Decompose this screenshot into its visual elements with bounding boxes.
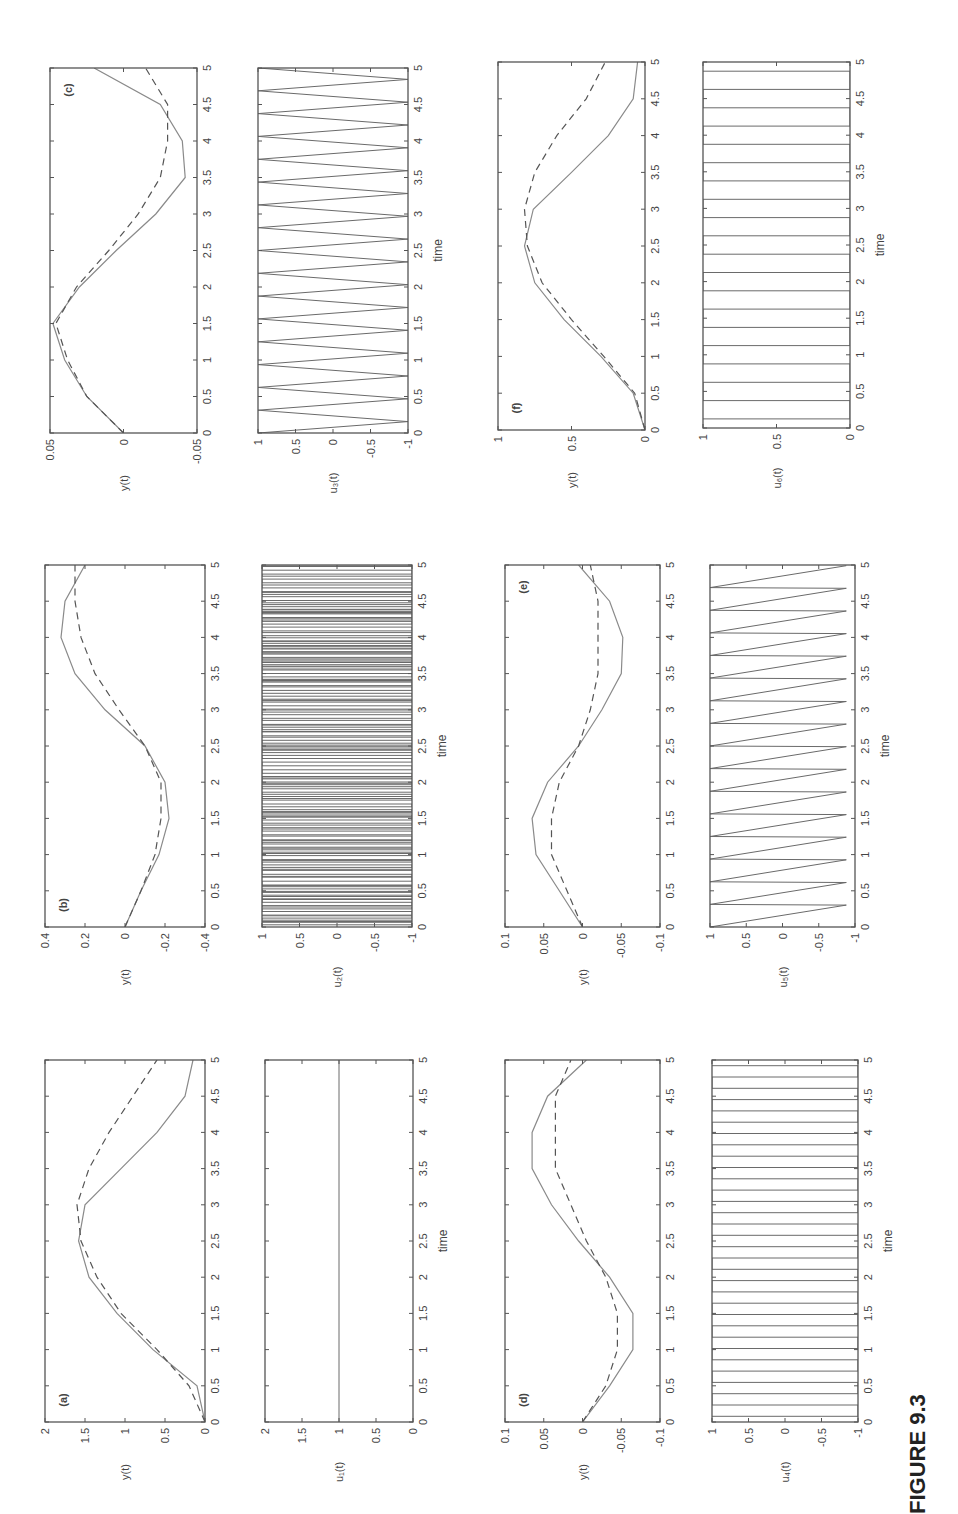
- x-tick-label: 0: [862, 1419, 874, 1425]
- x-tick-label: 4.5: [859, 594, 871, 609]
- x-tick-label: 3: [201, 211, 213, 217]
- x-tick-label: 0.5: [416, 883, 428, 898]
- axes-frame: [505, 1060, 660, 1422]
- panel-d: 00.511.522.533.544.55-0.1-0.0500.050.1y(…: [499, 1057, 676, 1480]
- x-tick-label: 1: [209, 1347, 221, 1353]
- panel-u3: 00.511.522.533.544.55-1-0.500.51u₃(t)tim…: [252, 65, 445, 494]
- x-tick-label: 1.5: [859, 811, 871, 826]
- x-tick-label: 3.5: [417, 1161, 429, 1176]
- y-tick-label: 1: [706, 1428, 718, 1434]
- x-tick-label: 4: [664, 634, 676, 640]
- y-tick-label: 0: [779, 1428, 791, 1434]
- y-tick-label: 0: [577, 1428, 589, 1434]
- x-tick-label: 5: [664, 1057, 676, 1063]
- x-tick-label: 2.5: [859, 738, 871, 753]
- y-tick-label: 1: [252, 439, 264, 445]
- y-tick-label: 0.5: [290, 439, 302, 454]
- y-tick-label: 0.5: [771, 434, 783, 449]
- x-tick-label: 2: [664, 779, 676, 785]
- x-tick-label: 2.5: [209, 1233, 221, 1248]
- x-tick-label: 3: [859, 707, 871, 713]
- x-tick-label: 1.5: [417, 1306, 429, 1321]
- x-tick-label: 3: [412, 211, 424, 217]
- x-tick-label: 2: [201, 284, 213, 290]
- panel-e: 00.511.522.533.544.55-0.1-0.0500.050.1y(…: [499, 562, 676, 985]
- y-tick-label: -1: [402, 439, 414, 449]
- panel-label: (d): [517, 1393, 529, 1407]
- x-tick-label: 4: [417, 1129, 429, 1135]
- series-dashed: [75, 565, 161, 927]
- x-tick-label: 0: [859, 924, 871, 930]
- series-solid: [525, 62, 646, 430]
- y-tick-label: -0.5: [369, 933, 381, 952]
- y-tick-label: 0: [777, 933, 789, 939]
- x-tick-label: 2.5: [416, 738, 428, 753]
- y-tick-label: -0.5: [816, 1428, 828, 1447]
- x-tick-label: 1.5: [209, 811, 221, 826]
- input-signal: [703, 71, 850, 419]
- x-tick-label: 0: [209, 1419, 221, 1425]
- x-tick-label: 2: [664, 1274, 676, 1280]
- y-tick-label: 1: [333, 1428, 345, 1434]
- y-tick-label: 1: [492, 436, 504, 442]
- x-axis-label: time: [878, 734, 892, 757]
- x-tick-label: 0: [416, 924, 428, 930]
- x-tick-label: 5: [649, 59, 661, 65]
- x-tick-label: 2: [859, 779, 871, 785]
- y-tick-label: 2: [39, 1428, 51, 1434]
- x-tick-label: 2.5: [201, 243, 213, 258]
- y-axis-label: y(t): [566, 472, 578, 488]
- x-tick-label: 2.5: [862, 1233, 874, 1248]
- input-signal: [712, 1066, 858, 1417]
- x-tick-label: 4.5: [649, 91, 661, 106]
- x-tick-label: 1.5: [862, 1306, 874, 1321]
- x-tick-label: 5: [854, 59, 866, 65]
- y-tick-label: -1: [849, 933, 861, 943]
- x-tick-label: 2.5: [649, 238, 661, 253]
- x-tick-label: 0.5: [664, 1378, 676, 1393]
- x-tick-label: 3: [854, 205, 866, 211]
- x-tick-label: 3: [209, 707, 221, 713]
- x-tick-label: 0: [412, 430, 424, 436]
- panel-u6: 00.511.522.533.544.5500.51u₆(t)time: [697, 59, 887, 489]
- x-tick-label: 4: [201, 138, 213, 144]
- panel-f: 00.511.522.533.544.5500.51y(t)(f): [492, 59, 661, 488]
- x-tick-label: 2: [649, 280, 661, 286]
- x-tick-label: 3: [417, 1202, 429, 1208]
- panel-label: (c): [62, 83, 74, 97]
- x-tick-label: 0: [664, 1419, 676, 1425]
- y-tick-label: -0.05: [615, 1428, 627, 1453]
- input-signal: [258, 68, 408, 433]
- x-tick-label: 5: [859, 562, 871, 568]
- y-axis-label: y(t): [119, 1464, 131, 1480]
- x-tick-label: 0.5: [201, 389, 213, 404]
- x-tick-label: 0.5: [664, 883, 676, 898]
- panel-u2: 00.511.522.533.544.55-1-0.500.51u₂(t)tim…: [256, 562, 449, 987]
- figure-plots: 00.511.522.533.544.5500.511.52y(t)(a)00.…: [0, 0, 958, 1514]
- x-axis-label: time: [436, 1229, 450, 1252]
- y-axis-label: u₆(t): [771, 468, 783, 489]
- x-tick-label: 4.5: [416, 594, 428, 609]
- x-tick-label: 0.5: [862, 1378, 874, 1393]
- y-axis-label: y(t): [577, 969, 589, 985]
- y-tick-label: 0: [331, 933, 343, 939]
- y-tick-label: -0.05: [191, 439, 203, 464]
- x-tick-label: 4.5: [209, 594, 221, 609]
- y-tick-label: 0.05: [44, 439, 56, 460]
- figure-9-3: 00.511.522.533.544.5500.511.52y(t)(a)00.…: [0, 0, 958, 1514]
- x-tick-label: 1: [664, 852, 676, 858]
- x-tick-label: 0.5: [649, 386, 661, 401]
- x-tick-label: 1.5: [201, 316, 213, 331]
- x-tick-label: 2.5: [664, 738, 676, 753]
- y-tick-label: 1: [256, 933, 268, 939]
- x-tick-label: 2: [209, 779, 221, 785]
- x-tick-label: 1: [649, 353, 661, 359]
- x-tick-label: 2: [412, 284, 424, 290]
- series-solid: [53, 68, 185, 433]
- y-tick-label: 0.4: [39, 933, 51, 948]
- x-axis-label: time: [873, 233, 887, 256]
- y-tick-label: 0: [407, 1428, 419, 1434]
- y-tick-label: 0: [118, 439, 130, 445]
- y-axis-label: u₁(t): [333, 1462, 345, 1482]
- y-tick-label: 0: [639, 436, 651, 442]
